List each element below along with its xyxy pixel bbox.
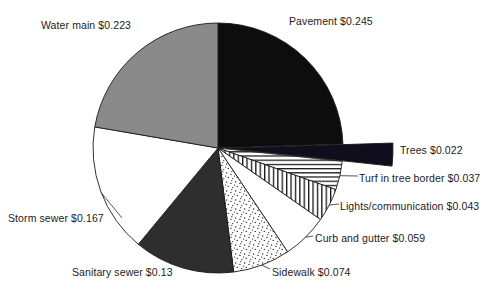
- pie-slice-water-main: [95, 23, 218, 148]
- pie-label-sanitary-sewer: Sanitary sewer $0.13: [72, 266, 173, 278]
- pie-slice-pavement: [218, 23, 343, 148]
- callout-line-lights-communication: [329, 204, 339, 205]
- pie-label-storm-sewer: Storm sewer $0.167: [8, 212, 104, 224]
- pie-label-trees: Trees $0.022: [400, 144, 463, 156]
- pie-label-lights-communication: Lights/communication $0.043: [340, 200, 479, 212]
- pie-label-curb-and-gutter: Curb and gutter $0.059: [315, 232, 425, 244]
- pie-label-water-main: Water main $0.223: [41, 19, 131, 31]
- pie-label-pavement: Pavement $0.245: [289, 15, 373, 27]
- pie-label-turf-in-tree-border: Turf in tree border $0.037: [359, 172, 480, 184]
- callout-line-sidewalk: [262, 265, 270, 269]
- pie-label-sidewalk: Sidewalk $0.074: [272, 266, 351, 278]
- pie-chart-figure: Water main $0.223 Pavement $0.245 Trees …: [0, 0, 497, 300]
